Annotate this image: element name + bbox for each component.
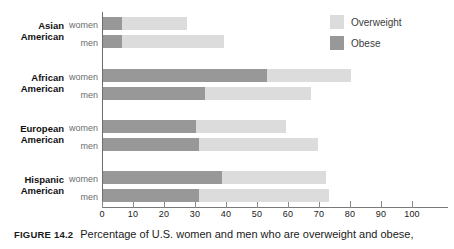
overweight-swatch-icon (330, 15, 344, 29)
series-label-african-women: women (54, 72, 98, 82)
x-axis-tick (412, 201, 413, 208)
bar-segment-obese (103, 69, 267, 82)
x-axis-tick (288, 201, 289, 208)
x-axis-tick-label: 60 (275, 209, 301, 219)
x-axis-tick (164, 201, 165, 208)
x-axis-tick (381, 201, 382, 208)
bar-hispanic-men (103, 189, 329, 202)
bar-segment-overweight (122, 17, 187, 30)
obese-swatch-icon (330, 36, 344, 50)
series-label-european-men: men (54, 141, 98, 151)
bar-segment-overweight (267, 69, 351, 82)
x-axis-tick-label: 80 (337, 209, 363, 219)
x-axis-tick-label: 100 (399, 209, 425, 219)
series-label-european-women: women (54, 123, 98, 133)
chart-legend: Overweight Obese (330, 15, 402, 57)
x-axis-tick (350, 201, 351, 208)
bar-segment-obese (103, 189, 199, 202)
bar-segment-overweight (199, 138, 318, 151)
bar-segment-overweight (199, 189, 329, 202)
bar-segment-obese (103, 35, 122, 48)
bar-european-men (103, 138, 318, 151)
x-axis-tick-label: 10 (120, 209, 146, 219)
figure-caption: FIGURE 14.2Percentage of U.S. women and … (14, 228, 454, 240)
legend-item-overweight: Overweight (330, 15, 402, 29)
chart-plot-area: 0102030405060708090100 Asian American Af… (0, 0, 454, 215)
x-axis-tick (319, 201, 320, 208)
x-axis-tick-label: 30 (182, 209, 208, 219)
bar-segment-obese (103, 171, 222, 184)
bar-segment-overweight (205, 87, 310, 100)
x-axis-tick-label: 0 (89, 209, 115, 219)
x-axis-tick (102, 201, 103, 208)
legend-item-obese: Obese (330, 36, 402, 50)
bar-european-women (103, 120, 286, 133)
x-axis-tick-label: 20 (151, 209, 177, 219)
series-label-african-men: men (54, 90, 98, 100)
x-axis-tick-label: 70 (306, 209, 332, 219)
x-axis-tick (257, 201, 258, 208)
x-axis-tick-label: 90 (368, 209, 394, 219)
bar-segment-obese (103, 120, 196, 133)
legend-label-overweight: Overweight (351, 17, 402, 28)
bar-african-women (103, 69, 351, 82)
series-label-asian-women: women (54, 20, 98, 30)
bar-segment-obese (103, 138, 199, 151)
figure-number: FIGURE 14.2 (14, 229, 73, 240)
figure-caption-text: Percentage of U.S. women and men who are… (80, 228, 413, 240)
bar-segment-obese (103, 17, 122, 30)
bar-asian-men (103, 35, 224, 48)
bar-hispanic-women (103, 171, 326, 184)
x-axis-tick (226, 201, 227, 208)
x-axis-tick (133, 201, 134, 208)
bar-segment-obese (103, 87, 205, 100)
bar-segment-overweight (222, 171, 326, 184)
bar-segment-overweight (122, 35, 224, 48)
series-label-hispanic-women: women (54, 174, 98, 184)
x-axis-tick-label: 40 (213, 209, 239, 219)
bar-african-men (103, 87, 311, 100)
bar-segment-overweight (196, 120, 286, 133)
series-label-hispanic-men: men (54, 192, 98, 202)
figure-container: 0102030405060708090100 Asian American Af… (0, 0, 454, 249)
bar-asian-women (103, 17, 187, 30)
x-axis-tick (195, 201, 196, 208)
x-axis-line (102, 207, 448, 208)
x-axis-tick-label: 50 (244, 209, 270, 219)
legend-label-obese: Obese (351, 38, 380, 49)
series-label-asian-men: men (54, 38, 98, 48)
